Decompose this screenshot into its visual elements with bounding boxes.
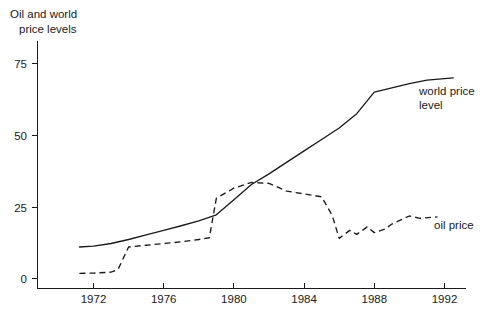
series-line-oil-price: [79, 182, 437, 273]
chart-container: Oil and world price levels 75 50 25 0 19: [0, 0, 480, 327]
y-axis-ticks: [32, 64, 38, 279]
x-axis-ticks: [94, 283, 445, 289]
x-tick-label-1972: 1972: [81, 293, 107, 305]
x-tick-label-1988: 1988: [362, 293, 388, 305]
line-chart: Oil and world price levels 75 50 25 0 19: [0, 0, 480, 327]
series-label-oil-price: oil price: [434, 219, 474, 231]
x-tick-label-1992: 1992: [432, 293, 458, 305]
y-tick-label-75: 75: [14, 58, 27, 70]
y-tick-label-50: 50: [14, 130, 27, 142]
x-tick-label-1984: 1984: [291, 293, 317, 305]
chart-title-line-2: price levels: [19, 23, 77, 35]
series-label-world-price-level-line-1: world price: [418, 85, 475, 97]
x-tick-label-1980: 1980: [221, 293, 247, 305]
y-tick-label-0: 0: [21, 273, 27, 285]
x-tick-label-1976: 1976: [151, 293, 177, 305]
series-label-world-price-level-line-2: level: [419, 99, 443, 111]
y-tick-label-25: 25: [14, 202, 27, 214]
chart-title-line-1: Oil and world: [10, 8, 77, 20]
